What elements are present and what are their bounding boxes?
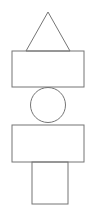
lower-rectangle-shape	[12, 125, 84, 162]
circle-shape	[31, 88, 66, 123]
triangle-shape	[26, 12, 70, 51]
shape-drawing	[0, 0, 96, 217]
upper-rectangle-shape	[12, 51, 84, 87]
figure-canvas	[0, 0, 96, 217]
base-rectangle-shape	[32, 162, 68, 204]
